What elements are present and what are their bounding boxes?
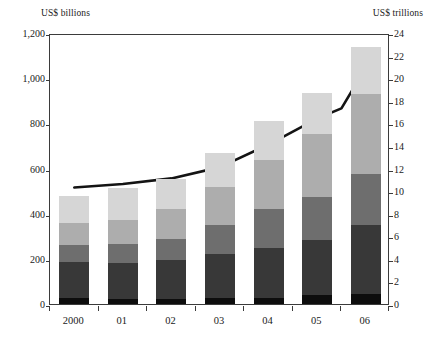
x-axis-tick-mark — [243, 306, 244, 311]
y-axis-left-tick-mark — [46, 80, 51, 81]
y-axis-right-tick-label: 16 — [394, 119, 404, 129]
bar-04 — [254, 121, 284, 304]
bar-segment-segment-4 — [351, 94, 381, 173]
bar-segment-segment-3 — [302, 197, 332, 240]
plot-area — [49, 34, 389, 305]
y-axis-right-tick-mark — [388, 148, 393, 149]
bar-segment-segment-2 — [205, 254, 235, 298]
bar-segment-segment-2 — [156, 260, 186, 298]
bar-segment-segment-1 — [302, 295, 332, 304]
y-axis-left-tick-label: 800 — [30, 119, 45, 129]
x-axis-tick-label-05: 05 — [311, 315, 322, 326]
bar-segment-segment-4 — [302, 134, 332, 197]
x-axis-tick-label-03: 03 — [214, 315, 225, 326]
x-axis-tick-label-2000: 2000 — [63, 315, 84, 326]
bar-segment-segment-4 — [156, 209, 186, 240]
y-axis-left-tick-label: 1,000 — [23, 74, 46, 84]
right-axis-unit-label: US$ trillions — [373, 8, 423, 18]
left-axis: 02004006008001,0001,200 — [4, 34, 45, 305]
bar-segment-segment-1 — [254, 298, 284, 304]
y-axis-right-tick-label: 20 — [394, 74, 404, 84]
x-axis-tick-mark — [98, 306, 99, 311]
chart-figure: US$ billions US$ trillions 0200400600800… — [0, 0, 437, 341]
y-axis-right-tick-mark — [388, 171, 393, 172]
y-axis-left-tick-label: 0 — [40, 300, 45, 310]
bar-segment-segment-2 — [302, 240, 332, 295]
y-axis-left-tick-mark — [46, 216, 51, 217]
y-axis-right-tick-mark — [388, 261, 393, 262]
bar-segment-segment-4 — [108, 220, 138, 244]
y-axis-right-tick-mark — [388, 193, 393, 194]
bar-05 — [302, 93, 332, 304]
bar-segment-segment-2 — [108, 263, 138, 299]
y-axis-left-tick-label: 200 — [30, 255, 45, 265]
bar-03 — [205, 153, 235, 304]
bar-segment-segment-3 — [351, 174, 381, 225]
y-axis-left-tick-label: 1,200 — [23, 29, 46, 39]
x-axis-tick-mark — [49, 306, 50, 311]
bar-segment-segment-3 — [59, 245, 89, 261]
bar-segment-segment-4 — [59, 223, 89, 246]
x-axis-tick-mark — [340, 306, 341, 311]
bar-segment-segment-1 — [59, 298, 89, 304]
x-axis-tick-label-01: 01 — [117, 315, 128, 326]
y-axis-right-tick-label: 24 — [394, 29, 404, 39]
bar-segment-segment-1 — [351, 294, 381, 304]
bar-segment-segment-1 — [205, 298, 235, 304]
y-axis-right-tick-label: 0 — [394, 300, 399, 310]
y-axis-right-tick-mark — [388, 80, 393, 81]
bar-segment-segment-2 — [59, 262, 89, 299]
y-axis-right-tick-label: 14 — [394, 142, 404, 152]
bar-06 — [351, 47, 381, 304]
y-axis-right-tick-mark — [388, 35, 393, 36]
x-axis-tick-label-02: 02 — [165, 315, 176, 326]
bar-segment-segment-5 — [254, 121, 284, 160]
bar-segment-segment-5 — [205, 153, 235, 187]
x-axis-tick-label-04: 04 — [262, 315, 273, 326]
bar-segment-segment-5 — [59, 196, 89, 223]
x-axis-tick-label-06: 06 — [359, 315, 370, 326]
bar-segment-segment-2 — [254, 248, 284, 298]
y-axis-right-tick-label: 12 — [394, 165, 404, 175]
bar-segment-segment-1 — [108, 299, 138, 304]
x-axis-tick-mark — [292, 306, 293, 311]
bar-01 — [108, 188, 138, 304]
y-axis-left-tick-mark — [46, 35, 51, 36]
y-axis-left-tick-mark — [46, 171, 51, 172]
bar-segment-segment-2 — [351, 225, 381, 294]
x-axis-tick-mark — [388, 306, 389, 311]
x-axis: 2000010203040506 — [49, 306, 389, 332]
y-axis-right-tick-mark — [388, 58, 393, 59]
bar-segment-segment-4 — [205, 187, 235, 225]
bar-2000 — [59, 196, 89, 304]
y-axis-right-tick-label: 2 — [394, 277, 399, 287]
bar-segment-segment-5 — [302, 93, 332, 134]
y-axis-right-tick-label: 10 — [394, 187, 404, 197]
bar-segment-segment-5 — [351, 47, 381, 94]
y-axis-right-tick-label: 8 — [394, 210, 399, 220]
right-axis: 024681012141618202224 — [394, 34, 434, 305]
y-axis-right-tick-mark — [388, 103, 393, 104]
y-axis-left-tick-mark — [46, 125, 51, 126]
y-axis-right-tick-mark — [388, 283, 393, 284]
x-axis-tick-mark — [146, 306, 147, 311]
y-axis-right-tick-label: 6 — [394, 232, 399, 242]
bar-segment-segment-4 — [254, 160, 284, 210]
bar-02 — [156, 179, 186, 304]
bar-segment-segment-3 — [108, 244, 138, 263]
y-axis-right-tick-mark — [388, 238, 393, 239]
left-axis-unit-label: US$ billions — [41, 8, 90, 18]
bar-segment-segment-3 — [156, 239, 186, 260]
y-axis-right-tick-label: 18 — [394, 97, 404, 107]
bar-segment-segment-3 — [254, 209, 284, 247]
x-axis-tick-mark — [195, 306, 196, 311]
bar-segment-segment-3 — [205, 225, 235, 253]
bar-segment-segment-5 — [156, 179, 186, 209]
y-axis-left-tick-label: 600 — [30, 165, 45, 175]
y-axis-right-tick-mark — [388, 216, 393, 217]
bar-segment-segment-1 — [156, 299, 186, 304]
y-axis-right-tick-label: 22 — [394, 52, 404, 62]
y-axis-left-tick-label: 400 — [30, 210, 45, 220]
y-axis-right-tick-mark — [388, 125, 393, 126]
y-axis-right-tick-label: 4 — [394, 255, 399, 265]
